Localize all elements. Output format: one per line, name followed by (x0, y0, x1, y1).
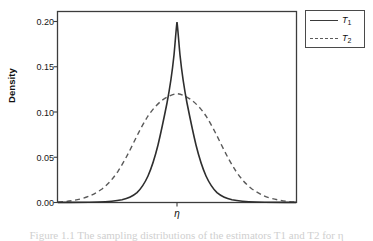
x-axis-label: η (157, 208, 197, 219)
legend-label-t2: T2 (342, 33, 351, 44)
legend-line-dashed-icon (310, 38, 338, 39)
axes-frame (58, 12, 297, 203)
legend-entry-t1: T1 (306, 12, 364, 30)
legend-line-solid-icon (310, 20, 338, 21)
legend-label-t1: T1 (342, 15, 351, 26)
figure-caption: Figure 1.1 The sampling distributions of… (0, 229, 373, 241)
series-t1-curve (58, 22, 296, 202)
legend: T1 T2 (305, 10, 365, 48)
series-t2-curve (58, 94, 296, 203)
legend-entry-t2: T2 (306, 30, 364, 48)
